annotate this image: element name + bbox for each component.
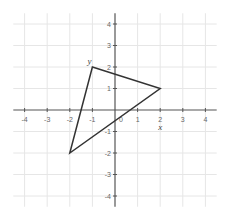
plot-svg: -4-3-2-112340-4-3-2-11234 yx bbox=[0, 0, 226, 219]
axes bbox=[13, 13, 216, 207]
y-tick-label: -3 bbox=[105, 171, 111, 178]
label-x: x bbox=[157, 122, 162, 132]
y-tick-label: 4 bbox=[107, 21, 111, 28]
x-tick-label: -3 bbox=[44, 116, 50, 123]
y-tick-label: -2 bbox=[105, 150, 111, 157]
x-tick-label: 4 bbox=[203, 116, 207, 123]
y-tick-label: 2 bbox=[107, 64, 111, 71]
y-tick-label: 1 bbox=[107, 85, 111, 92]
label-y: y bbox=[86, 56, 91, 66]
x-tick-label: 1 bbox=[136, 116, 140, 123]
coordinate-plane: -4-3-2-112340-4-3-2-11234 yx bbox=[0, 0, 226, 219]
x-tick-label: -4 bbox=[21, 116, 27, 123]
x-tick-label: -1 bbox=[89, 116, 95, 123]
y-tick-label: 3 bbox=[107, 42, 111, 49]
x-tick-label: 3 bbox=[181, 116, 185, 123]
y-tick-label: -1 bbox=[105, 128, 111, 135]
y-tick-label: -4 bbox=[105, 193, 111, 200]
x-tick-label: -2 bbox=[67, 116, 73, 123]
